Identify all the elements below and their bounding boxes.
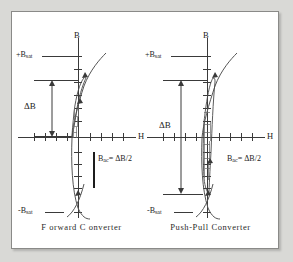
b-sat-positive-sub: sat <box>26 53 33 59</box>
delta-b-label: ΔB <box>24 101 36 111</box>
caption-forward: F orward C onverter <box>12 222 151 232</box>
b-sat-negative-sub: sat <box>155 209 162 215</box>
chart-panel-forward: B H +Bsat -Bsat ΔB Bac= ΔB/2 F orward C … <box>12 12 151 250</box>
chart-panel-pushpull: B H +Bsat -Bsat ΔB Bac= ΔB/2 Push-Pull C… <box>141 12 280 250</box>
b-sat-positive-text: +B <box>16 50 26 59</box>
b-sat-positive-sub: sat <box>155 53 162 59</box>
b-ac-tail-text: = ΔB/2 <box>238 154 261 163</box>
b-ac-tail-text: = ΔB/2 <box>109 154 132 163</box>
b-sat-negative-label: -Bsat <box>18 206 33 215</box>
figure-frame: B H +Bsat -Bsat ΔB Bac= ΔB/2 F orward C … <box>11 11 279 249</box>
caption-pushpull: Push-Pull Converter <box>141 222 280 232</box>
b-sat-positive-label: +Bsat <box>16 50 33 59</box>
b-sat-negative-sub: sat <box>26 209 33 215</box>
b-sat-negative-label: -Bsat <box>147 206 162 215</box>
bh-curve-forward <box>12 12 151 222</box>
bh-curve-pushpull <box>141 12 280 222</box>
b-axis-label: B <box>74 30 80 40</box>
b-sat-negative-text: -B <box>18 206 26 215</box>
b-sat-positive-text: +B <box>145 50 155 59</box>
b-axis-label: B <box>203 30 209 40</box>
b-sat-positive-label: +Bsat <box>145 50 162 59</box>
b-ac-relation-label: Bac= ΔB/2 <box>227 154 261 163</box>
delta-b-arrow <box>49 80 55 137</box>
b-ac-relation-label: Bac= ΔB/2 <box>98 154 132 163</box>
b-sat-negative-text: -B <box>147 206 155 215</box>
h-axis-label: H <box>267 131 273 141</box>
delta-b-label: ΔB <box>159 120 171 130</box>
